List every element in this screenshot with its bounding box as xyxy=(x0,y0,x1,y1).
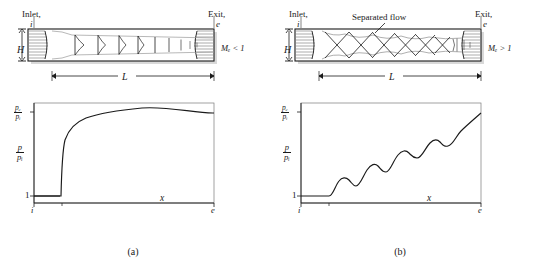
plot-xtick-e-b: e xyxy=(478,205,482,215)
caption-b: (b) xyxy=(267,246,533,257)
plot-xtick-i-a: i xyxy=(31,205,33,215)
ylabel-den-a: pᵢ xyxy=(16,153,24,162)
panel-a-graphics xyxy=(0,0,266,265)
ytop-den-b: pᵢ xyxy=(281,113,289,121)
height-dimension-b xyxy=(285,29,293,61)
station-leaders-b xyxy=(301,16,481,28)
length-dimension-a xyxy=(52,71,214,81)
length-dimension-b xyxy=(319,71,481,81)
plot-ytick-one-b: 1 xyxy=(292,190,297,200)
plot-xtick-e-a: e xyxy=(211,205,215,215)
plot-ytick-one-a: 1 xyxy=(25,190,30,200)
plot-ytop-label-b: pₑ pᵢ xyxy=(281,104,289,120)
plot-ylabel-a: p pᵢ xyxy=(16,143,24,161)
plot-ytop-label-a: pₑ pᵢ xyxy=(14,104,22,120)
plot-axes-b xyxy=(297,103,481,207)
caption-a: (a) xyxy=(0,246,266,257)
plot-xlabel-b: x xyxy=(427,193,431,203)
panel-b-graphics xyxy=(267,0,533,265)
height-dimension-a xyxy=(18,29,26,61)
panel-a: Inlet, i Exit, e H Mᵢ > 1 Mₑ < 1 L xyxy=(0,0,266,265)
plot-xlabel-a: x xyxy=(160,193,164,203)
plot-axes-a xyxy=(30,103,214,207)
ytop-den-a: pᵢ xyxy=(14,113,22,121)
station-leaders-a xyxy=(34,16,214,28)
ylabel-den-b: pᵢ xyxy=(283,153,291,162)
panel-b: Inlet, i Exit, e Separated flow H Mᵢ > 1… xyxy=(267,0,533,265)
plot-xtick-i-b: i xyxy=(298,205,300,215)
plot-ylabel-b: p pᵢ xyxy=(283,143,291,161)
